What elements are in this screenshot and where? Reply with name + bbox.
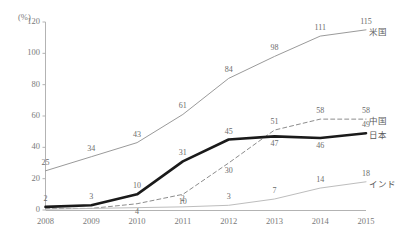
y-tick-label: 20 [8, 173, 40, 183]
data-label: 3 [77, 192, 105, 201]
data-label: 2 [169, 194, 197, 203]
series-label-日本: 日本 [369, 128, 387, 140]
data-label: 58 [306, 106, 334, 115]
x-tick-label: 2013 [254, 216, 294, 226]
data-label: 46 [306, 141, 334, 150]
data-label: 98 [260, 43, 288, 52]
data-label: 10 [123, 181, 151, 190]
x-tick-label: 2014 [300, 216, 340, 226]
y-tick-label: 40 [8, 141, 40, 151]
data-label: 51 [260, 117, 288, 126]
y-tick-label: 0 [8, 204, 40, 214]
series-label-米国: 米国 [369, 25, 387, 37]
data-label: 7 [260, 186, 288, 195]
data-label: 45 [215, 127, 243, 136]
x-tick-label: 2012 [209, 216, 249, 226]
data-label: 4 [123, 207, 151, 216]
data-label: 61 [169, 101, 197, 110]
y-tick-label: 80 [8, 79, 40, 89]
y-tick-label: 60 [8, 110, 40, 120]
x-tick-label: 2010 [117, 216, 157, 226]
data-label: 84 [215, 65, 243, 74]
y-tick-label: 120 [8, 16, 40, 26]
series-label-インド: インド [369, 177, 396, 189]
data-label: 3 [215, 192, 243, 201]
y-tick-label: 100 [8, 47, 40, 57]
data-label: 111 [306, 23, 334, 32]
x-tick-label: 2011 [163, 216, 203, 226]
data-label: 2 [32, 194, 60, 203]
data-label: 47 [260, 139, 288, 148]
data-label: 14 [306, 175, 334, 184]
x-tick-label: 2015 [346, 216, 386, 226]
data-label: 30 [215, 166, 243, 175]
data-label: 34 [77, 144, 105, 153]
data-label: 31 [169, 148, 197, 157]
data-label: 25 [32, 158, 60, 167]
series-label-中国: 中国 [369, 114, 387, 126]
x-tick-label: 2009 [71, 216, 111, 226]
x-tick-label: 2008 [26, 216, 66, 226]
data-label: 43 [123, 130, 151, 139]
